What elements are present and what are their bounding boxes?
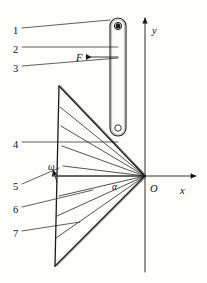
callout-leader-lines xyxy=(22,20,118,231)
alpha-label: α xyxy=(112,183,117,193)
connecting-bar-link xyxy=(110,18,126,136)
x-axis-label: x xyxy=(180,186,185,197)
fan-ray-9 xyxy=(55,176,145,266)
callout-label-7: 7 xyxy=(13,229,18,240)
leader-line-1 xyxy=(22,20,110,28)
callout-label-3: 3 xyxy=(13,64,18,75)
callout-label-2: 2 xyxy=(13,45,18,56)
mechanism-figure: 1 2 3 4 5 6 7 F ω α O x y xyxy=(0,0,207,283)
callout-label-1: 1 xyxy=(13,26,18,37)
fan-ray-6 xyxy=(59,176,145,196)
fan-ray-8 xyxy=(56,176,145,238)
callout-label-6: 6 xyxy=(13,205,18,216)
fan-bottom-edge-inner xyxy=(57,178,145,266)
fan-ray-7 xyxy=(57,176,145,216)
force-label: F xyxy=(76,53,82,64)
bar-outline-inner xyxy=(112,20,125,135)
fan-ray-1 xyxy=(60,107,145,176)
callout-label-5: 5 xyxy=(13,182,18,193)
bottom-pin-ring xyxy=(115,125,121,131)
rotating-fan-body xyxy=(55,86,145,266)
leader-line-7 xyxy=(22,222,80,231)
fan-ray-0 xyxy=(59,86,145,176)
leader-line-3 xyxy=(22,58,118,66)
top-pin-joint xyxy=(116,24,120,29)
callout-label-4: 4 xyxy=(13,140,18,151)
origin-label: O xyxy=(150,184,158,195)
fan-ray-2 xyxy=(61,126,145,176)
fan-ray-4 xyxy=(63,166,145,176)
omega-label: ω xyxy=(48,163,55,173)
bar-outline xyxy=(110,18,126,136)
coordinate-axes xyxy=(52,18,196,272)
figure-canvas xyxy=(0,0,207,283)
y-axis-label: y xyxy=(152,26,157,37)
